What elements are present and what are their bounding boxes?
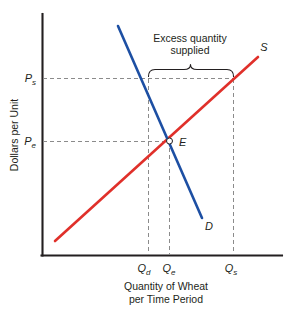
y-tick-pe-sub: e [32, 141, 37, 150]
supply-demand-chart: S D E Ps Pe Qd Qe Qs Excess quantity sup… [0, 0, 293, 310]
supply-curve [55, 57, 258, 241]
x-tick-label-qs: Qs [225, 262, 238, 277]
y-tick-ps-sub: s [32, 78, 36, 87]
x-tick-qe-sub: e [171, 268, 176, 277]
excess-quantity-annotation-line2: supplied [170, 44, 209, 56]
x-tick-qd-sub: d [146, 268, 151, 277]
supply-curve-label: S [260, 41, 268, 53]
y-tick-label-ps: Ps [25, 72, 36, 87]
equilibrium-point-marker [167, 138, 173, 144]
demand-curve-label: D [205, 220, 213, 232]
x-axis-title-line2: per Time Period [129, 293, 203, 305]
excess-quantity-annotation-line1: Excess quantity [153, 32, 227, 44]
excess-quantity-brace [149, 65, 234, 77]
x-tick-label-qe: Qe [162, 262, 176, 277]
x-tick-qs-sub: s [233, 268, 237, 277]
y-tick-label-pe: Pe [24, 135, 36, 150]
x-tick-label-qd: Qd [137, 262, 151, 277]
equilibrium-label: E [179, 136, 187, 148]
x-axis-title-line1: Quantity of Wheat [124, 280, 208, 292]
y-axis-title: Dollars per Unit [8, 99, 20, 171]
chart-canvas: S D E Ps Pe Qd Qe Qs Excess quantity sup… [0, 0, 293, 310]
